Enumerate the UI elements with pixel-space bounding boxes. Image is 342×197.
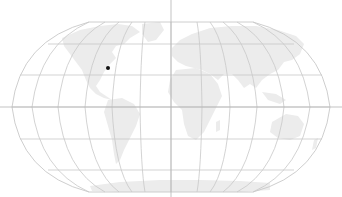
land-north-america [62, 24, 140, 100]
location-marker[interactable] [106, 66, 110, 70]
land-australia [270, 114, 304, 140]
land-africa [168, 68, 222, 140]
land-south-america [104, 98, 140, 164]
land-greenland [142, 22, 164, 42]
crosshair [0, 0, 342, 197]
land-madagascar [216, 120, 220, 132]
world-map[interactable] [0, 0, 342, 197]
